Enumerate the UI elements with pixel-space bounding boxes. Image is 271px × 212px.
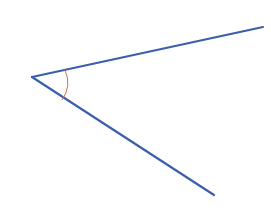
lower-ray bbox=[32, 77, 214, 195]
angle-diagram bbox=[0, 0, 271, 212]
upper-ray bbox=[32, 27, 263, 77]
angle-arc bbox=[62, 70, 68, 100]
